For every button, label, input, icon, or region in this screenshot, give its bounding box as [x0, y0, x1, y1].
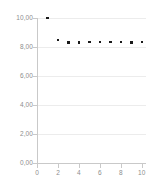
y-tick-label: 2,00 [2, 131, 33, 138]
y-tick-label: 10,00 [2, 15, 33, 22]
x-tick [121, 164, 122, 168]
x-tick-label: 10 [132, 170, 151, 177]
y-tick-label: 4,00 [2, 102, 33, 109]
data-point [67, 41, 70, 44]
data-point [78, 41, 81, 44]
scatter-chart: 10,00 8,00 6,00 4,00 2,00 0,00 0 2 4 6 8… [0, 0, 151, 184]
y-tick [33, 105, 37, 106]
gridline-2 [37, 134, 146, 135]
y-tick-label: 6,00 [2, 73, 33, 80]
gridline-8 [37, 47, 146, 48]
x-tick [58, 164, 59, 168]
data-point [141, 41, 144, 44]
y-axis-line [37, 18, 38, 164]
x-tick-label: 4 [69, 170, 89, 177]
y-tick [33, 134, 37, 135]
data-point [88, 41, 91, 44]
x-tick [79, 164, 80, 168]
x-tick [37, 164, 38, 168]
y-tick [33, 18, 37, 19]
x-tick-label: 6 [90, 170, 110, 177]
data-point [130, 41, 133, 44]
x-tick-label: 0 [27, 170, 47, 177]
x-tick [100, 164, 101, 168]
data-point [46, 17, 49, 20]
y-axis-labels: 10,00 8,00 6,00 4,00 2,00 0,00 [0, 0, 33, 184]
y-tick [33, 47, 37, 48]
data-point [57, 39, 60, 42]
gridline-6 [37, 76, 146, 77]
y-tick-label: 0,00 [2, 160, 33, 167]
plot-area [37, 18, 146, 163]
y-tick-label: 8,00 [2, 44, 33, 51]
x-axis-line [37, 163, 146, 164]
data-point [109, 41, 112, 44]
data-point [99, 41, 102, 44]
data-point [120, 41, 123, 44]
gridline-10 [37, 18, 146, 19]
y-tick [33, 76, 37, 77]
x-tick-label: 2 [48, 170, 68, 177]
x-tick-label: 8 [111, 170, 131, 177]
gridline-4 [37, 105, 146, 106]
x-tick [142, 164, 143, 168]
